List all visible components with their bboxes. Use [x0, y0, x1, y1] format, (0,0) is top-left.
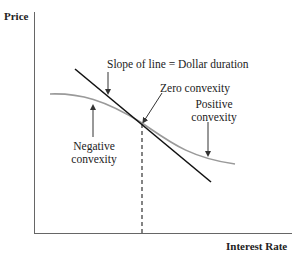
y-axis-label: Price: [4, 10, 28, 23]
negative-convexity-label-1: Negative: [73, 140, 115, 153]
negative-convexity-label-2: convexity: [71, 153, 116, 166]
positive-convexity-label-1: Positive: [195, 98, 232, 111]
zero-convexity-annotation: Zero convexity: [160, 82, 230, 95]
tangent-annotation: Slope of line = Dollar duration: [107, 58, 249, 71]
zero-convexity-arrow: [144, 93, 162, 121]
positive-convexity-label-2: convexity: [191, 111, 236, 124]
x-axis-label: Interest Rate: [226, 240, 287, 253]
convexity-diagram: [0, 0, 305, 257]
